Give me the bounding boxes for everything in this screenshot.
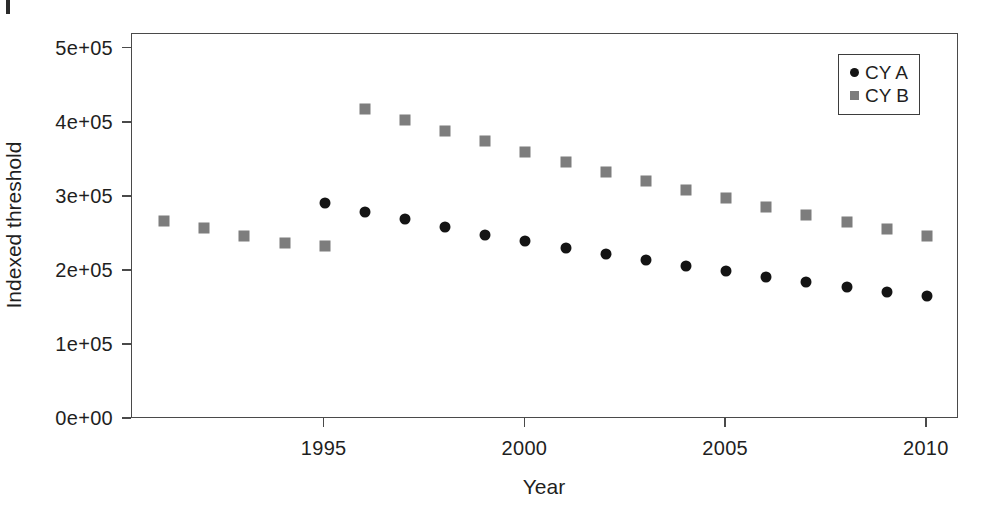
data-point [159, 215, 170, 226]
data-point [359, 103, 370, 114]
x-axis-tick-label: 2005 [702, 437, 748, 460]
data-point [921, 291, 932, 302]
data-point [721, 193, 732, 204]
data-point [681, 185, 692, 196]
data-point [520, 146, 531, 157]
y-axis-tick-mark [122, 343, 131, 344]
x-axis-tick-label: 2000 [502, 437, 548, 460]
x-axis-tick-label: 1995 [301, 437, 347, 460]
data-point [640, 176, 651, 187]
data-point [520, 236, 531, 247]
y-axis-label: Indexed threshold [2, 142, 26, 309]
data-point [319, 197, 330, 208]
data-point [440, 125, 451, 136]
data-point [881, 286, 892, 297]
data-point [721, 265, 732, 276]
data-point [359, 206, 370, 217]
y-axis-tick-mark [122, 121, 131, 122]
x-axis-tick-label: 2010 [903, 437, 949, 460]
x-axis-tick-mark [323, 418, 324, 427]
legend-label-cy-b: CY B [865, 85, 909, 107]
x-axis-label: Year [523, 475, 565, 499]
y-axis-tick-label: 0e+00 [55, 407, 113, 430]
data-point [480, 136, 491, 147]
data-point [761, 201, 772, 212]
data-point [319, 241, 330, 252]
data-point [681, 260, 692, 271]
data-point [560, 242, 571, 253]
data-point [761, 271, 772, 282]
data-point [199, 222, 210, 233]
y-axis-tick-mark [122, 195, 131, 196]
legend-label-cy-a: CY A [865, 62, 908, 84]
y-axis-tick-label: 1e+05 [55, 332, 113, 355]
legend-marker-circle-icon [846, 68, 862, 77]
data-point [640, 254, 651, 265]
data-point [600, 248, 611, 259]
data-point [801, 209, 812, 220]
data-points-layer [132, 34, 957, 417]
legend-entry-cy-b: CY B [846, 84, 912, 107]
y-axis-tick-mark [122, 417, 131, 418]
data-point [801, 277, 812, 288]
y-axis-tick-label: 2e+05 [55, 258, 113, 281]
x-axis-tick-mark [925, 418, 926, 427]
data-point [399, 114, 410, 125]
data-point [279, 237, 290, 248]
data-point [239, 231, 250, 242]
scan-artifact-mark [6, 0, 10, 14]
plot-area [131, 33, 958, 418]
chart-figure: Indexed threshold 0e+001e+052e+053e+054e… [0, 0, 986, 527]
x-axis-tick-mark [524, 418, 525, 427]
data-point [841, 282, 852, 293]
x-axis-tick-mark [724, 418, 725, 427]
y-axis-tick-mark [122, 47, 131, 48]
data-point [600, 166, 611, 177]
data-point [480, 229, 491, 240]
data-point [560, 157, 571, 168]
y-axis-tick-label: 5e+05 [55, 36, 113, 59]
y-axis-tick-label: 4e+05 [55, 110, 113, 133]
data-point [399, 214, 410, 225]
legend-marker-square-icon [846, 91, 862, 100]
data-point [440, 222, 451, 233]
chart-legend: CY A CY B [838, 54, 920, 115]
y-axis-tick-label: 3e+05 [55, 184, 113, 207]
y-axis-tick-mark [122, 269, 131, 270]
data-point [921, 231, 932, 242]
data-point [841, 217, 852, 228]
data-point [881, 224, 892, 235]
legend-entry-cy-a: CY A [846, 61, 912, 84]
